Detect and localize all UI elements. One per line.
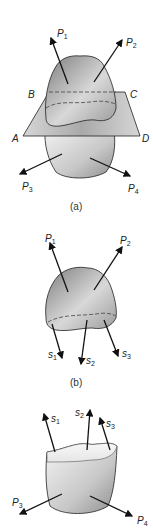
stress-arrow-s3-b [104,320,118,356]
label-p4-c: P4 [137,515,148,527]
free-body-diagram: P1 P2 P3 P4 A B C D (a) P1 P2 s1 s2 s3 (… [0,0,153,530]
upper-body [45,56,116,126]
label-p1: P1 [57,28,68,40]
label-d: D [142,133,149,144]
label-s1-c: s1 [51,413,60,425]
label-s2-b: s2 [86,355,95,367]
label-s2-c: s2 [75,407,84,419]
caption-b: (b) [70,377,82,388]
label-p3: P3 [22,181,33,193]
part-c: s1 s2 s3 P3 P4 [12,407,148,527]
label-b: B [28,89,35,100]
label-s3-c: s3 [106,418,115,430]
label-p1-b: P1 [45,233,56,245]
label-a: A [11,133,19,144]
caption-a: (a) [70,201,82,212]
part-a: P1 P2 P3 P4 A B C D (a) [11,28,149,212]
label-c: C [130,89,138,100]
upper-body-free [46,267,117,330]
label-s1-b: s1 [48,349,57,361]
label-p3-c: P3 [12,497,23,509]
label-p4: P4 [128,183,139,195]
label-p2: P2 [126,37,137,49]
label-p2-b: P2 [120,235,131,247]
label-s3-b: s3 [122,348,131,360]
part-b: P1 P2 s1 s2 s3 (b) [45,233,131,388]
